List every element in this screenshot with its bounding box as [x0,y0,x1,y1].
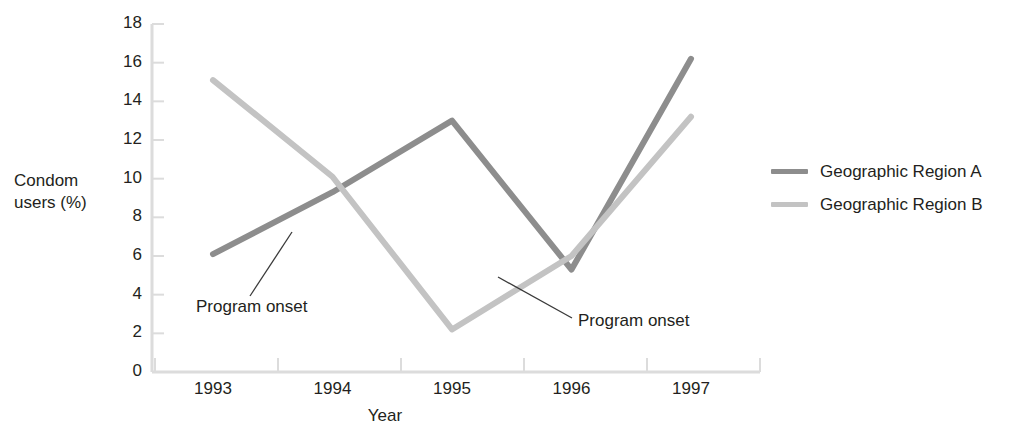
legend-color-swatch [771,202,808,207]
series-line [213,80,691,329]
legend-label: Geographic Region A [820,162,982,182]
annotation-program-onset-a: Program onset [196,297,308,317]
annotation-program-onset-b: Program onset [578,311,690,331]
legend-label: Geographic Region B [820,195,983,215]
chart-page: Condom users (%) 181614121086420 1993199… [0,0,1021,447]
annotation-leader-a [250,232,292,296]
plot-area [0,0,1021,447]
legend-item[interactable]: Geographic Region A [771,155,1021,188]
chart-legend: Geographic Region AGeographic Region B [771,155,1021,221]
series-line [213,59,691,270]
legend-color-swatch [771,169,808,174]
series-lines [213,59,691,330]
legend-item[interactable]: Geographic Region B [771,188,1021,221]
